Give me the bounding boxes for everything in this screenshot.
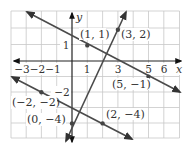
label-point-0-neg4: (0, −4) [27,113,66,126]
y-axis-label: y [75,11,83,24]
line-a [27,12,180,92]
x-tick-neg1: −1 [45,63,60,75]
label-point-1-1: (1, 1) [80,28,110,41]
y-tick-1: 1 [63,39,70,51]
x-axis-label: x [176,63,183,76]
label-point-3-2: (3, 2) [121,28,151,41]
point-2-neg4 [100,121,104,125]
point-1-1 [85,43,89,47]
point-neg2-neg2 [39,90,43,94]
x-tick-3: 3 [115,63,122,75]
x-tick-5: 5 [145,63,152,75]
x-tick-neg2: −2 [30,63,45,75]
point-0-neg4 [70,121,74,125]
label-point-2-neg4: (2, −4) [106,108,145,121]
x-tick-1: 1 [84,63,91,75]
label-point-5-neg1: (5, −1) [112,78,151,91]
x-tick-6: 6 [161,63,168,75]
x-tick-neg3: −3 [14,63,29,75]
coordinate-plane: −3 −2 −1 1 3 5 6 x y 1 −2 (1, 1) (3, 2) … [0,0,190,149]
label-point-neg2-neg2: (−2, −2) [12,96,60,109]
point-3-2 [116,28,120,32]
